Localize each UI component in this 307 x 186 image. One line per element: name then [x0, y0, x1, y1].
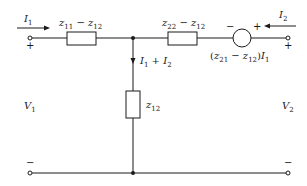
label-i1: I1	[24, 14, 32, 27]
port2-minus-terminal	[286, 171, 290, 175]
impedance-z12	[126, 91, 140, 118]
port1-minus-sign: −	[26, 158, 34, 168]
label-z11-minus-z12: z11 − z12	[59, 18, 102, 31]
junction-bottom	[131, 171, 135, 175]
label-i2: I2	[279, 10, 287, 23]
label-z22-minus-z12: z22 − z12	[162, 18, 205, 31]
branch-current-arrow-icon	[131, 58, 136, 64]
label-branch-current: I1 + I2	[140, 56, 172, 69]
label-source-value: (z21 − z12)I1	[210, 51, 269, 64]
label-v2: V2	[282, 101, 294, 114]
i2-arrow-icon	[264, 24, 296, 29]
source-minus-sign: −	[226, 22, 234, 32]
label-z12: z12	[146, 100, 160, 113]
source-plus-sign: +	[253, 22, 261, 32]
label-v1: V1	[24, 101, 36, 114]
port2-minus-sign: −	[284, 158, 292, 168]
impedance-z11-z12	[67, 32, 96, 45]
port1-plus-sign: +	[26, 41, 34, 51]
junction-top	[131, 36, 135, 40]
dependent-voltage-source-icon	[233, 29, 251, 47]
impedance-z22-z12	[168, 32, 197, 45]
port2-plus-sign: +	[284, 41, 292, 51]
i1-arrow-icon	[17, 26, 50, 31]
port1-minus-terminal	[28, 171, 32, 175]
